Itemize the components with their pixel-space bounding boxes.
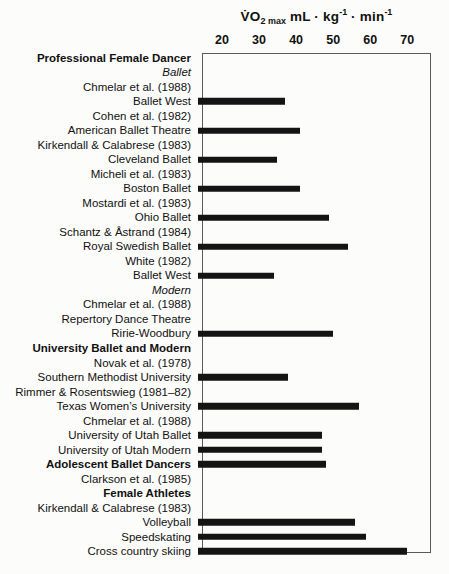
bar: [198, 185, 300, 192]
row-label: Modern: [0, 283, 197, 298]
bar-track: [198, 167, 427, 182]
chart-row: Ballet: [0, 65, 449, 80]
row-label: Chmelar et al. (1988): [0, 80, 197, 95]
chart-row: Cohen et al. (1982): [0, 109, 449, 124]
row-label: Kirkendall & Calabrese (1983): [0, 501, 197, 516]
row-label: University of Utah Modern: [0, 443, 197, 458]
bar-track: [198, 472, 427, 487]
x-tick-label: 60: [354, 33, 386, 47]
chart-title-unit-a: mL · kg: [286, 9, 339, 24]
bar-track: [198, 283, 427, 298]
row-label: Chmelar et al. (1988): [0, 297, 197, 312]
row-label: Chmelar et al. (1988): [0, 414, 197, 429]
chart-title-unit-b: · min: [347, 9, 384, 24]
row-label: Ballet: [0, 65, 197, 80]
bar-track: [198, 254, 427, 269]
bar-track: [198, 457, 427, 472]
bar-track: [198, 414, 427, 429]
chart-row: Cross country skiing: [0, 544, 449, 559]
chart-row: Chmelar et al. (1988): [0, 80, 449, 95]
rows: Professional Female DancerBalletChmelar …: [0, 51, 449, 559]
row-label: Rimmer & Rosentswieg (1981–82): [0, 385, 197, 400]
chart-row: Novak et al. (1978): [0, 356, 449, 371]
chart-title: V̇O2 max mL · kg-1 · min-1: [202, 7, 431, 26]
chart-row: Royal Swedish Ballet: [0, 239, 449, 254]
chart-title-sup-b: -1: [384, 7, 392, 17]
bar-track: [198, 94, 427, 109]
chart-row: Ballet West: [0, 94, 449, 109]
bar: [198, 98, 285, 105]
bar: [198, 519, 355, 526]
chart-title-sub: 2 max: [261, 16, 287, 26]
x-tick-label: 30: [243, 33, 275, 47]
chart-row: University of Utah Modern: [0, 443, 449, 458]
bar-track: [198, 196, 427, 211]
chart-row: Clarkson et al. (1985): [0, 472, 449, 487]
row-label: Cleveland Ballet: [0, 152, 197, 167]
chart-row: Southern Methodist University: [0, 370, 449, 385]
row-label: Boston Ballet: [0, 181, 197, 196]
bar-track: [198, 501, 427, 516]
bar-track: [198, 515, 427, 530]
chart-row: American Ballet Theatre: [0, 123, 449, 138]
row-label: White (1982): [0, 254, 197, 269]
x-tick-label: 20: [206, 33, 238, 47]
chart-row: Mostardi et al. (1983): [0, 196, 449, 211]
row-label: Clarkson et al. (1985): [0, 472, 197, 487]
row-label: Novak et al. (1978): [0, 356, 197, 371]
row-label: Kirkendall & Calabrese (1983): [0, 138, 197, 153]
bar-track: [198, 65, 427, 80]
x-tick-label: 50: [317, 33, 349, 47]
row-label: American Ballet Theatre: [0, 123, 197, 138]
bar-track: [198, 486, 427, 501]
bar: [198, 432, 322, 439]
bar-track: [198, 428, 427, 443]
chart-row: Schantz & Åstrand (1984): [0, 225, 449, 240]
x-tick-label: 70: [391, 33, 423, 47]
row-label: Schantz & Åstrand (1984): [0, 225, 197, 240]
chart-row: Cleveland Ballet: [0, 152, 449, 167]
bar: [198, 272, 274, 279]
row-label: Adolescent Ballet Dancers: [0, 457, 197, 472]
row-label: Ballet West: [0, 268, 197, 283]
row-label: Mostardi et al. (1983): [0, 196, 197, 211]
bar: [198, 214, 329, 221]
bar: [198, 461, 326, 468]
row-label: Volleyball: [0, 515, 197, 530]
bar: [198, 156, 277, 163]
bar: [198, 534, 366, 541]
bar: [198, 127, 300, 134]
bar: [198, 548, 407, 555]
bar-track: [198, 312, 427, 327]
bar: [198, 403, 359, 410]
chart-row: Female Athletes: [0, 486, 449, 501]
bar-track: [198, 210, 427, 225]
bar: [198, 447, 322, 454]
chart-row: University of Utah Ballet: [0, 428, 449, 443]
bar-track: [198, 152, 427, 167]
bar-track: [198, 138, 427, 153]
row-label: Speedskating: [0, 530, 197, 545]
row-label: Ballet West: [0, 94, 197, 109]
bar-track: [198, 544, 427, 559]
bar-track: [198, 80, 427, 95]
chart-row: Volleyball: [0, 515, 449, 530]
row-label: University of Utah Ballet: [0, 428, 197, 443]
row-label: Micheli et al. (1983): [0, 167, 197, 182]
chart-row: Boston Ballet: [0, 181, 449, 196]
bar: [198, 330, 333, 337]
bar-track: [198, 181, 427, 196]
row-label: Ohio Ballet: [0, 210, 197, 225]
chart-row: Ririe-Woodbury: [0, 326, 449, 341]
bar-track: [198, 326, 427, 341]
row-label: Female Athletes: [0, 486, 197, 501]
row-label: Cohen et al. (1982): [0, 109, 197, 124]
row-label: Southern Methodist University: [0, 370, 197, 385]
bar-track: [198, 341, 427, 356]
chart-row: Kirkendall & Calabrese (1983): [0, 138, 449, 153]
x-tick-label: 40: [280, 33, 312, 47]
bar-track: [198, 399, 427, 414]
bar-track: [198, 356, 427, 371]
bar-track: [198, 530, 427, 545]
vo2max-bar-chart: V̇O2 max mL · kg-1 · min-1 203040506070 …: [0, 0, 449, 574]
